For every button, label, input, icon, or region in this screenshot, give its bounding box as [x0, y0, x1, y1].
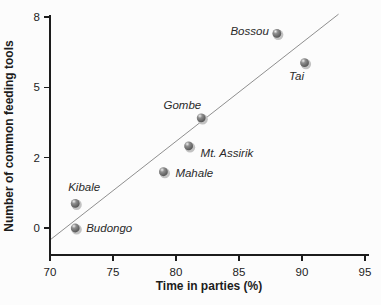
x-tick-label-80: 80 [170, 266, 183, 278]
point-label-mahale: Mahale [175, 167, 213, 179]
points-layer [71, 29, 311, 235]
y-axis-title: Number of common feeding tools [2, 40, 16, 232]
x-tick-label-95: 95 [359, 266, 372, 278]
trendline-layer [50, 14, 339, 240]
point-label-mt-assirik: Mt. Assirik [201, 147, 255, 159]
y-tick-label-5: 5 [34, 81, 40, 93]
point-labels-layer: BossouTaiGombeMt. AssirikMahaleKibaleBud… [68, 25, 304, 234]
point-bossou [272, 29, 281, 38]
point-label-budongo: Budongo [86, 222, 133, 234]
y-tick-label-2: 2 [34, 152, 40, 164]
scatter-figure: 7075808590950258 BossouTaiGombeMt. Assir… [0, 0, 381, 305]
point-gombe [197, 113, 206, 122]
y-tick-label-0: 0 [34, 222, 40, 234]
point-tai [300, 58, 309, 67]
point-mt-assirik [184, 142, 193, 151]
x-tick-label-70: 70 [44, 266, 57, 278]
point-label-kibale: Kibale [68, 181, 100, 193]
axes-layer: 7075808590950258 [34, 11, 372, 278]
point-label-gombe: Gombe [163, 99, 201, 111]
x-tick-label-90: 90 [296, 266, 309, 278]
x-tick-label-75: 75 [107, 266, 120, 278]
y-tick-label-8: 8 [34, 11, 40, 23]
point-mahale [159, 167, 168, 176]
point-label-tai: Tai [289, 70, 304, 82]
point-kibale [71, 199, 80, 208]
trendline [50, 14, 339, 240]
point-label-bossou: Bossou [230, 25, 269, 37]
point-budongo [71, 224, 80, 233]
x-axis-title: Time in parties (%) [156, 279, 262, 293]
scatter-plot-svg: 7075808590950258 BossouTaiGombeMt. Assir… [0, 0, 381, 305]
x-tick-label-85: 85 [233, 266, 246, 278]
